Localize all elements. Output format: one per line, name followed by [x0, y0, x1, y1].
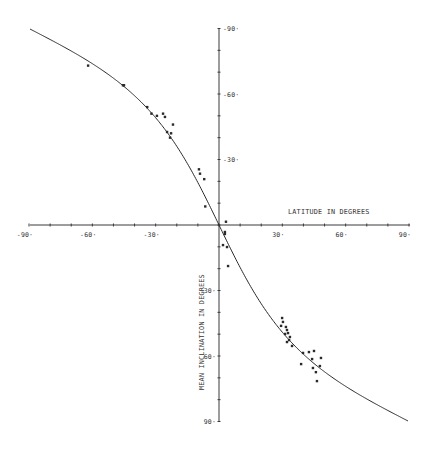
data-point [150, 112, 152, 114]
data-point [320, 357, 322, 359]
data-point [288, 339, 290, 341]
data-point [198, 168, 200, 170]
data-point [222, 244, 224, 246]
x-axis: -90·-60·-30·30·60·90· LATITUDE IN DEGREE… [17, 208, 411, 239]
inclination-latitude-chart: -90·-60·-30·30·60·90· LATITUDE IN DEGREE… [0, 0, 442, 451]
data-point [87, 64, 89, 66]
x-tick-label: 90· [399, 231, 411, 239]
data-point [311, 358, 313, 360]
y-tick-label: -90· [223, 25, 239, 33]
data-point [146, 106, 148, 108]
y-axis-title: MEAN INCLINATION IN DEGREES [198, 274, 206, 390]
x-tick-label: -60· [80, 231, 96, 239]
data-point [289, 336, 291, 338]
data-point [123, 84, 125, 86]
data-point [300, 363, 302, 365]
data-point [226, 246, 228, 248]
x-tick-label: 60· [335, 231, 347, 239]
data-point [156, 115, 158, 117]
x-axis-title: LATITUDE IN DEGREES [288, 208, 370, 216]
data-point [282, 321, 284, 323]
data-point [166, 131, 168, 133]
data-point [204, 205, 206, 207]
data-point [308, 351, 310, 353]
data-point [225, 221, 227, 223]
y-tick-label: -60· [223, 91, 239, 99]
data-point [313, 350, 315, 352]
x-axis-tick-labels: -90·-60·-30·30·60·90· [17, 231, 411, 239]
data-point [319, 365, 321, 367]
data-point [162, 112, 164, 114]
data-point [224, 233, 226, 235]
data-point [199, 172, 201, 174]
data-point [280, 325, 282, 327]
x-tick-label: -90· [17, 231, 33, 239]
data-point [287, 332, 289, 334]
data-point [281, 317, 283, 319]
data-point [227, 265, 229, 267]
data-point [291, 345, 293, 347]
data-point [284, 333, 286, 335]
data-point [286, 329, 288, 331]
data-point [164, 116, 166, 118]
x-tick-label: 30· [272, 231, 284, 239]
data-point [170, 132, 172, 134]
data-point [315, 371, 317, 373]
data-point [286, 341, 288, 343]
data-point [302, 352, 304, 354]
y-tick-label: 90· [204, 418, 216, 426]
data-point [316, 380, 318, 382]
x-tick-label: -30· [143, 231, 159, 239]
data-point [312, 367, 314, 369]
data-point [203, 178, 205, 180]
y-tick-label: -30· [223, 156, 239, 164]
data-point [169, 136, 171, 138]
data-point [285, 326, 287, 328]
data-point [172, 123, 174, 125]
